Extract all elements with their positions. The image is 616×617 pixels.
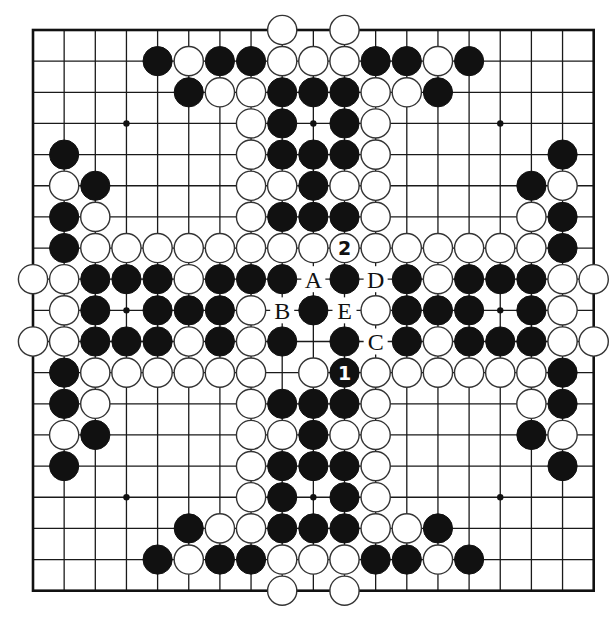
black-stone	[174, 514, 203, 543]
point-label-b: B	[274, 298, 290, 324]
white-stone	[423, 47, 452, 76]
white-stone	[236, 452, 265, 481]
black-stone	[423, 514, 452, 543]
white-stone	[174, 327, 203, 356]
black-stone	[548, 358, 577, 387]
black-stone	[112, 327, 141, 356]
black-stone	[236, 47, 265, 76]
white-stone	[330, 15, 359, 44]
black-stone	[112, 265, 141, 294]
white-stone	[517, 358, 546, 387]
black-stone	[455, 545, 484, 574]
black-stone	[330, 483, 359, 512]
white-stone	[50, 420, 79, 449]
white-stone	[361, 358, 390, 387]
white-stone	[174, 545, 203, 574]
white-stone	[174, 265, 203, 294]
black-stone	[268, 109, 297, 138]
white-stone	[517, 233, 546, 262]
white-stone	[548, 296, 577, 325]
white-stone	[174, 233, 203, 262]
black-stone	[143, 296, 172, 325]
black-stone	[268, 452, 297, 481]
white-stone	[81, 358, 110, 387]
black-stone	[517, 327, 546, 356]
black-stone	[455, 47, 484, 76]
white-stone	[236, 420, 265, 449]
white-stone	[548, 265, 577, 294]
white-stone	[174, 358, 203, 387]
white-stone	[455, 358, 484, 387]
black-stone	[50, 389, 79, 418]
black-stone	[455, 327, 484, 356]
black-stone	[268, 78, 297, 107]
white-stone	[236, 233, 265, 262]
white-stone	[81, 389, 110, 418]
white-stone	[81, 233, 110, 262]
black-stone	[548, 140, 577, 169]
white-stone	[268, 545, 297, 574]
black-stone	[268, 327, 297, 356]
black-stone	[205, 265, 234, 294]
white-stone	[236, 483, 265, 512]
white-stone	[423, 233, 452, 262]
white-stone	[236, 202, 265, 231]
black-stone	[81, 265, 110, 294]
move-number-1: 1	[338, 362, 351, 384]
black-stone	[299, 140, 328, 169]
white-stone	[205, 233, 234, 262]
white-stone	[330, 576, 359, 605]
black-stone	[205, 296, 234, 325]
black-stone	[50, 452, 79, 481]
black-stone	[143, 327, 172, 356]
black-stone	[517, 296, 546, 325]
white-stone	[299, 545, 328, 574]
black-stone	[205, 545, 234, 574]
white-stone	[486, 358, 515, 387]
black-stone	[299, 296, 328, 325]
black-stone	[330, 514, 359, 543]
point-label-e: E	[337, 298, 352, 324]
white-stone	[361, 420, 390, 449]
white-stone	[548, 420, 577, 449]
white-stone	[236, 78, 265, 107]
white-stone	[299, 233, 328, 262]
black-stone	[486, 265, 515, 294]
black-stone	[268, 483, 297, 512]
black-stone	[299, 171, 328, 200]
black-stone	[330, 327, 359, 356]
white-stone	[392, 358, 421, 387]
white-stone	[330, 420, 359, 449]
white-stone	[579, 327, 608, 356]
black-stone	[81, 420, 110, 449]
black-stone	[50, 202, 79, 231]
point-label-c: C	[368, 329, 384, 355]
black-stone	[330, 109, 359, 138]
white-stone	[50, 327, 79, 356]
white-stone	[423, 545, 452, 574]
black-stone	[548, 452, 577, 481]
hoshi-dot	[497, 494, 503, 500]
black-stone	[392, 296, 421, 325]
white-stone	[361, 233, 390, 262]
white-stone	[392, 233, 421, 262]
black-stone	[392, 327, 421, 356]
white-stone	[361, 296, 390, 325]
go-board: ABCDE 12	[0, 0, 616, 617]
hoshi-dot	[123, 307, 129, 313]
black-stone	[268, 202, 297, 231]
white-stone	[236, 327, 265, 356]
white-stone	[517, 389, 546, 418]
white-stone	[268, 171, 297, 200]
white-stone	[361, 389, 390, 418]
hoshi-dot	[497, 120, 503, 126]
hoshi-dot	[310, 494, 316, 500]
white-stone	[143, 233, 172, 262]
white-stone	[205, 514, 234, 543]
white-stone	[268, 233, 297, 262]
white-stone	[236, 296, 265, 325]
point-label-a: A	[305, 267, 323, 293]
black-stone	[174, 296, 203, 325]
black-stone	[50, 358, 79, 387]
hoshi-dot	[310, 120, 316, 126]
